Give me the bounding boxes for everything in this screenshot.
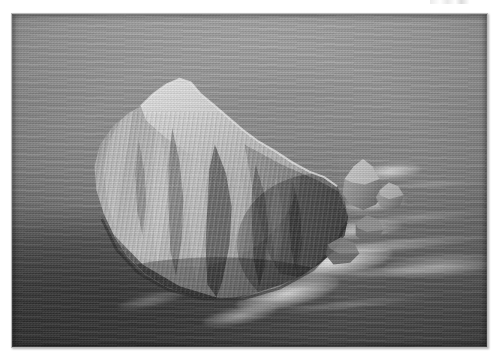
main-sea-stack: [50, 57, 421, 330]
page-canvas: Aerial view of a steep pyramidal rock is…: [0, 0, 501, 360]
photo-frame: Aerial view of a steep pyramidal rock is…: [11, 13, 488, 348]
top-edge-artifact: [430, 0, 476, 4]
photograph: [12, 14, 487, 347]
